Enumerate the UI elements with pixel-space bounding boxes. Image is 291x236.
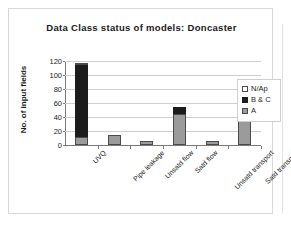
y-tick-mark (63, 131, 65, 132)
gridline (65, 103, 261, 104)
bar-segment[interactable] (173, 107, 186, 114)
stacked-bar[interactable] (206, 61, 219, 145)
gridline (65, 61, 261, 62)
plot-inner: 020406080100120 (65, 61, 261, 146)
page-right-rule (282, 24, 283, 214)
bar-group[interactable] (75, 61, 88, 145)
stacked-bar[interactable] (75, 61, 88, 145)
x-tick-label: Pipe leakage (132, 149, 166, 183)
bar-segment[interactable] (206, 141, 219, 145)
legend-swatch-icon (242, 97, 248, 103)
x-tick-label: Unsatd flow (163, 149, 194, 180)
bar-group[interactable] (206, 61, 219, 145)
gridline (65, 131, 261, 132)
x-tick-label: Satd flow (194, 149, 219, 174)
y-tick-label: 20 (54, 127, 62, 136)
plot-area: 020406080100120 (65, 61, 261, 146)
bar-segment[interactable] (173, 114, 186, 145)
x-tick-mark (228, 146, 229, 149)
x-tick-mark (163, 146, 164, 149)
x-tick-mark (261, 146, 262, 149)
bar-group[interactable] (140, 61, 153, 145)
gridline (65, 75, 261, 76)
chart-legend: N/ApB & CA (237, 79, 281, 122)
legend-item[interactable]: B & C (242, 96, 277, 104)
y-tick-mark (63, 75, 65, 76)
gridline (65, 117, 261, 118)
bar-segment[interactable] (75, 137, 88, 145)
y-tick-mark (63, 89, 65, 90)
y-tick-label: 40 (54, 113, 62, 122)
legend-label: B & C (251, 96, 271, 104)
x-tick-mark (196, 146, 197, 149)
stacked-bar[interactable] (140, 61, 153, 145)
gridline (65, 89, 261, 90)
x-tick-label: UVQ (92, 149, 108, 165)
x-tick-mark (130, 146, 131, 149)
bar-segment[interactable] (75, 65, 88, 138)
y-tick-label: 60 (54, 99, 62, 108)
y-tick-label: 100 (49, 71, 62, 80)
chart-frame: Data Class status of models: Doncaster N… (8, 8, 273, 214)
y-tick-label: 80 (54, 85, 62, 94)
legend-swatch-icon (242, 108, 248, 114)
chart-title: Data Class status of models: Doncaster (9, 22, 274, 33)
y-tick-mark (63, 145, 65, 146)
y-axis-label: No. of input fields (19, 50, 28, 150)
stacked-bar[interactable] (108, 61, 121, 145)
bar-segment[interactable] (108, 135, 121, 146)
stacked-bar[interactable] (173, 61, 186, 145)
legend-swatch-icon (242, 86, 248, 92)
y-tick-label: 120 (49, 57, 62, 66)
figure-canvas: Data Class status of models: Doncaster N… (0, 0, 291, 236)
bar-segment[interactable] (75, 63, 88, 65)
y-tick-mark (63, 61, 65, 62)
legend-label: A (251, 107, 256, 115)
y-tick-mark (63, 117, 65, 118)
bar-group[interactable] (108, 61, 121, 145)
legend-label: N/Ap (251, 85, 268, 93)
legend-item[interactable]: N/Ap (242, 85, 277, 93)
bar-group[interactable] (173, 61, 186, 145)
x-tick-mark (98, 146, 99, 149)
bar-segment[interactable] (140, 141, 153, 145)
y-tick-label: 0 (58, 141, 62, 150)
y-tick-mark (63, 103, 65, 104)
legend-item[interactable]: A (242, 107, 277, 115)
